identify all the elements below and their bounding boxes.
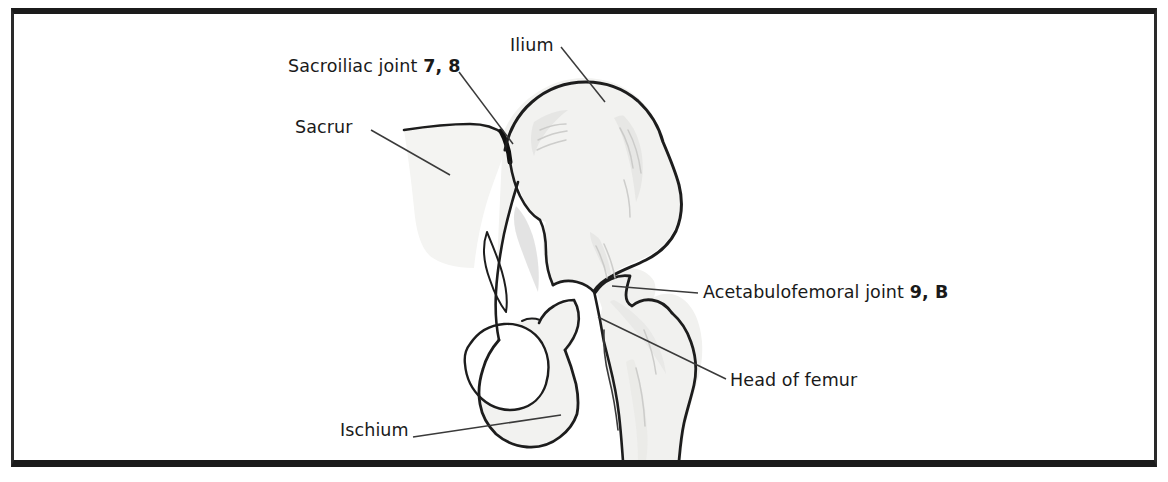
label-sacrum: Sacrur bbox=[295, 118, 353, 137]
label-ischium: Ischium bbox=[340, 421, 409, 440]
label-acetabulofemoral-joint-text: Acetabulofemoral joint bbox=[703, 282, 910, 302]
label-sacrum-text: Sacrur bbox=[295, 117, 353, 137]
label-ilium: Ilium bbox=[510, 36, 554, 55]
label-head-of-femur: Head of femur bbox=[730, 371, 857, 390]
label-sacroiliac-joint-text: Sacroiliac joint bbox=[288, 56, 423, 76]
label-head-of-femur-text: Head of femur bbox=[730, 370, 857, 390]
sciatic-notch-shading bbox=[514, 206, 539, 292]
figure-page: Sacroiliac joint 7, 8 Ilium Sacrur Aceta… bbox=[0, 0, 1168, 482]
label-acetabulofemoral-joint: Acetabulofemoral joint 9, B bbox=[703, 283, 948, 302]
femur-shape bbox=[596, 268, 702, 460]
label-ischium-text: Ischium bbox=[340, 420, 409, 440]
pelvis-illustration bbox=[0, 0, 1168, 482]
obturator-foramen bbox=[465, 324, 549, 410]
label-sacroiliac-joint-code: 7, 8 bbox=[423, 56, 461, 76]
label-sacroiliac-joint: Sacroiliac joint 7, 8 bbox=[288, 57, 461, 76]
label-acetabulofemoral-joint-code: 9, B bbox=[910, 282, 949, 302]
label-ilium-text: Ilium bbox=[510, 35, 554, 55]
